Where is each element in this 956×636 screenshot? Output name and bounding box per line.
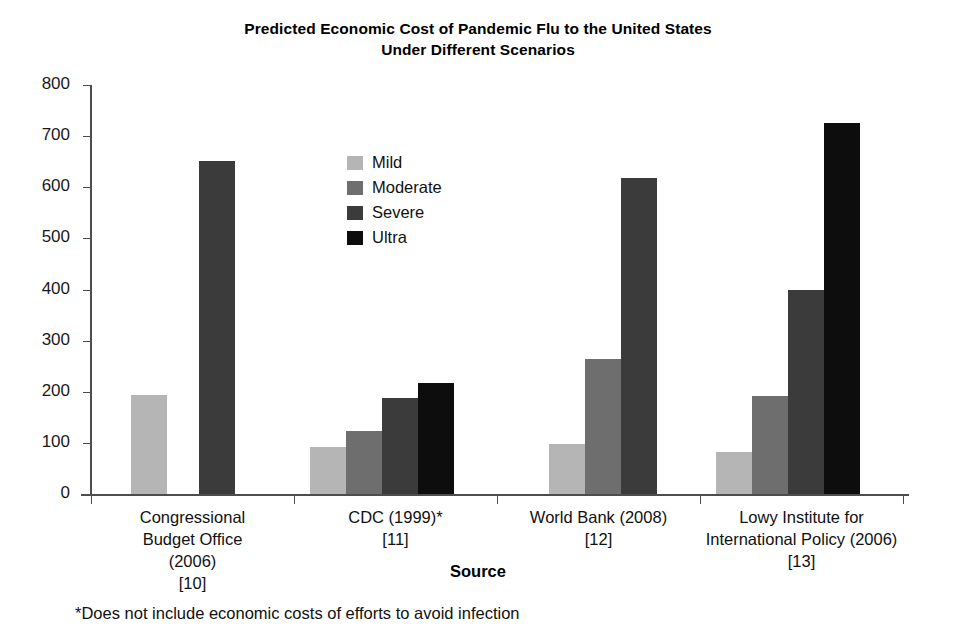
x-axis-tick — [903, 495, 904, 504]
legend-label-mild: Mild — [372, 153, 402, 172]
legend-label-moderate: Moderate — [372, 178, 442, 197]
chart-page: Predicted Economic Cost of Pandemic Flu … — [0, 0, 956, 636]
y-axis-tick-label: 400 — [42, 279, 70, 299]
category-label-line: Congressional — [78, 506, 308, 528]
legend-label-severe: Severe — [372, 203, 424, 222]
bar-severe-2 — [382, 398, 418, 494]
bar-moderate-3 — [585, 359, 621, 494]
chart-title-line-2: Under Different Scenarios — [0, 39, 956, 60]
y-axis-tick-label: 200 — [42, 381, 70, 401]
category-label-line: Budget Office — [78, 528, 308, 550]
bar-ultra-2 — [418, 383, 454, 494]
x-axis-line — [81, 494, 909, 496]
legend-item-mild: Mild — [347, 150, 442, 175]
bar-mild-4 — [716, 452, 752, 494]
y-axis-tick-label: 600 — [42, 176, 70, 196]
x-axis-tick — [700, 495, 701, 504]
legend: MildModerateSevereUltra — [347, 150, 442, 250]
y-axis-tick: 500 — [83, 238, 91, 239]
y-axis-tick: 700 — [83, 136, 91, 137]
y-axis-tick: 800 — [83, 85, 91, 86]
legend-item-ultra: Ultra — [347, 225, 442, 250]
y-axis-tick: 200 — [83, 392, 91, 393]
x-axis-tick — [91, 495, 92, 504]
bar-mild-3 — [549, 444, 585, 494]
legend-swatch-mild — [347, 156, 363, 170]
x-axis-title: Source — [0, 562, 956, 581]
bar-severe-3 — [621, 178, 657, 494]
legend-label-ultra: Ultra — [372, 228, 407, 247]
x-axis-tick — [294, 495, 295, 504]
chart-title-line-1: Predicted Economic Cost of Pandemic Flu … — [244, 20, 712, 37]
y-axis-tick-label: 500 — [42, 227, 70, 247]
y-axis-tick: 300 — [83, 341, 91, 342]
y-axis-tick-label: 300 — [42, 330, 70, 350]
bar-severe-1 — [199, 161, 235, 494]
plot-area: 0100200300400500600700800 — [91, 85, 903, 494]
legend-item-severe: Severe — [347, 200, 442, 225]
bar-severe-4 — [788, 290, 824, 494]
legend-swatch-severe — [347, 206, 363, 220]
bar-mild-2 — [310, 447, 346, 494]
legend-item-moderate: Moderate — [347, 175, 442, 200]
bar-ultra-4 — [824, 123, 860, 494]
legend-swatch-ultra — [347, 231, 363, 245]
y-axis-tick-label: 0 — [61, 483, 70, 503]
bar-moderate-2 — [346, 431, 382, 494]
y-axis-tick: 100 — [83, 443, 91, 444]
y-axis-tick-label: 100 — [42, 432, 70, 452]
x-axis-tick — [497, 495, 498, 504]
bar-moderate-4 — [752, 396, 788, 494]
y-axis-tick-label: 700 — [42, 125, 70, 145]
category-label-line: International Policy (2006) — [652, 528, 952, 550]
footnote: *Does not include economic costs of effo… — [75, 603, 520, 623]
y-axis-tick: 0 — [83, 494, 91, 495]
page-title: Predicted Economic Cost of Pandemic Flu … — [0, 18, 956, 60]
y-axis-tick-label: 800 — [42, 74, 70, 94]
bar-mild-1 — [131, 395, 167, 494]
y-axis-tick: 400 — [83, 290, 91, 291]
y-axis-tick: 600 — [83, 187, 91, 188]
category-label-line: Lowy Institute for — [652, 506, 952, 528]
legend-swatch-moderate — [347, 181, 363, 195]
